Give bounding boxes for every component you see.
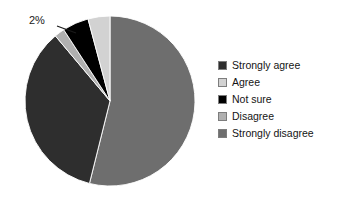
legend-item-strongly-disagree[interactable]: Strongly disagree <box>218 125 337 141</box>
legend-item-label: Agree <box>232 76 260 88</box>
legend-swatch-icon <box>218 61 227 70</box>
legend-item-label: Strongly agree <box>232 59 300 71</box>
chart-legend: Strongly agree Agree Not sure Disagree S… <box>218 57 337 142</box>
slice-data-label-disagree: 2% <box>29 14 45 26</box>
pie-slice-group <box>25 16 195 186</box>
legend-swatch-icon <box>218 78 227 87</box>
pie-svg <box>0 0 210 202</box>
legend-item-label: Strongly disagree <box>232 127 314 139</box>
pie-plot-area: 2% <box>0 0 210 202</box>
legend-item-not-sure[interactable]: Not sure <box>218 91 337 107</box>
legend-swatch-icon <box>218 95 227 104</box>
legend-item-label: Disagree <box>232 110 274 122</box>
pie-chart: 2% Strongly agree Agree Not sure Disagre… <box>0 0 337 202</box>
legend-swatch-icon <box>218 129 227 138</box>
legend-item-agree[interactable]: Agree <box>218 74 337 90</box>
legend-item-strongly-agree[interactable]: Strongly agree <box>218 57 337 73</box>
legend-item-label: Not sure <box>232 93 272 105</box>
legend-swatch-icon <box>218 112 227 121</box>
legend-item-disagree[interactable]: Disagree <box>218 108 337 124</box>
